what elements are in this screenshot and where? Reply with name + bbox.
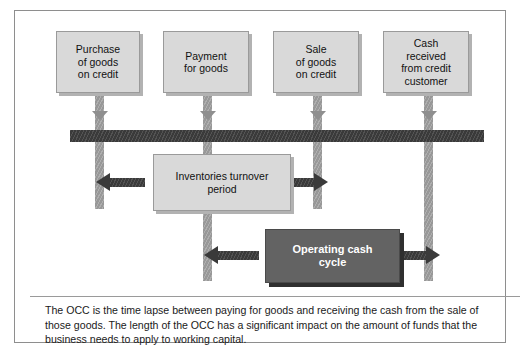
arrowhead-down-cash-received [421, 111, 437, 120]
event-label-line: Purchase [76, 43, 120, 56]
arrowhead-down-payment [200, 111, 216, 120]
arrow-shaft [109, 178, 145, 187]
period-label-line: period [176, 183, 269, 196]
event-box-purchase[interactable]: Purchase of goods on credit [56, 31, 140, 93]
figure-caption: The OCC is the time lapse between paying… [45, 303, 507, 347]
event-label-line: for goods [184, 62, 228, 75]
event-label-line: Cash [401, 37, 451, 50]
arrowhead-left-icon [96, 173, 110, 191]
period-box-inventories-turnover[interactable]: Inventories turnover period [153, 154, 291, 211]
arrowhead-right-icon [314, 173, 328, 191]
event-label-line: of goods [76, 56, 120, 69]
measure-arrow-inventories-left [109, 178, 145, 187]
arrowhead-down-sale [310, 111, 326, 120]
period-label-line: Inventories turnover [176, 170, 269, 183]
timeline-bar [70, 130, 484, 142]
arrow-shaft [217, 251, 259, 260]
arrowhead-down-purchase [92, 111, 108, 120]
event-label-line: customer [401, 75, 451, 88]
arrowhead-right-icon [426, 246, 440, 264]
event-label-line: on credit [296, 68, 336, 81]
event-box-payment[interactable]: Payment for goods [163, 31, 249, 93]
event-label-line: on credit [76, 68, 120, 81]
period-label-line: cycle [292, 256, 372, 270]
period-label-line: Operating cash [292, 243, 372, 257]
period-box-operating-cash-cycle[interactable]: Operating cash cycle [265, 229, 400, 283]
occ-diagram-figure: Purchase of goods on credit Payment for … [0, 0, 524, 354]
event-box-sale[interactable]: Sale of goods on credit [273, 31, 359, 93]
measure-arrow-occ-left [217, 251, 259, 260]
arrowhead-left-icon [204, 246, 218, 264]
caption-divider [30, 296, 520, 297]
figure-frame: Purchase of goods on credit Payment for … [14, 10, 506, 343]
event-label-line: of goods [296, 56, 336, 69]
event-label-line: from credit [401, 62, 451, 75]
event-label-line: Payment [184, 50, 228, 63]
event-box-cash-received[interactable]: Cash received from credit customer [383, 31, 469, 93]
event-label-line: Sale [296, 43, 336, 56]
event-label-line: received [401, 50, 451, 63]
